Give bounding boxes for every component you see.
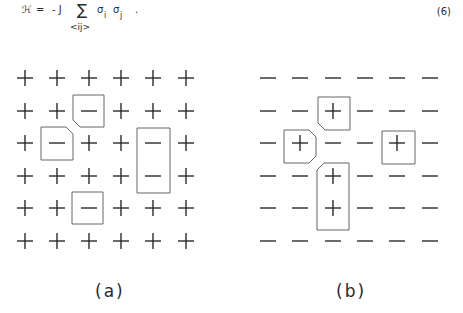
spin-lattices xyxy=(0,0,463,313)
caption-b: (b) xyxy=(336,281,366,301)
domain-box xyxy=(318,97,350,130)
caption-a: (a) xyxy=(95,281,125,301)
domain-box xyxy=(137,128,170,193)
domain-box xyxy=(382,131,415,164)
